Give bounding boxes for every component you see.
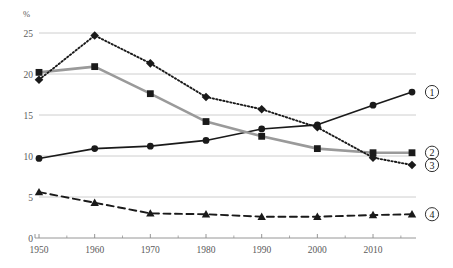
- legend-marker-4[interactable]: 4: [425, 208, 438, 221]
- data-point-marker-square: [258, 133, 265, 140]
- data-point-marker-circle: [203, 137, 210, 144]
- legend-group: 1234: [425, 85, 438, 220]
- x-tick-label: 2000: [308, 245, 327, 255]
- y-tick-label: 25: [24, 29, 34, 39]
- legend-label: 4: [430, 209, 435, 220]
- x-tick-label: 1960: [85, 245, 104, 255]
- y-axis-tick-labels: 0510152025: [24, 29, 34, 244]
- y-tick-label: 5: [28, 193, 33, 203]
- data-point-marker-square: [91, 63, 98, 70]
- data-point-marker-square: [147, 90, 154, 97]
- x-axis-tick-labels: 1950196019701980199020002010: [30, 245, 383, 255]
- y-axis-unit-group: %: [23, 9, 30, 19]
- series-lines-group: [39, 35, 412, 216]
- y-tick-label: 15: [24, 111, 34, 121]
- chart-canvas: 0510152025 % 195019601970198019902000201…: [0, 0, 453, 268]
- x-tick-label: 1990: [252, 245, 271, 255]
- data-point-marker-diamond: [146, 59, 155, 68]
- data-point-marker-diamond: [408, 161, 417, 170]
- data-point-marker-circle: [147, 143, 154, 150]
- x-tick-label: 2010: [364, 245, 383, 255]
- x-tick-label: 1970: [141, 245, 160, 255]
- data-point-marker-square: [36, 69, 43, 76]
- legend-marker-2[interactable]: 2: [425, 146, 438, 159]
- y-tick-label: 20: [24, 70, 34, 80]
- x-tick-label: 1980: [197, 245, 216, 255]
- legend-marker-3[interactable]: 3: [425, 158, 438, 171]
- x-tick-label: 1950: [30, 245, 49, 255]
- gridlines-group: [39, 33, 416, 197]
- legend-label: 2: [430, 147, 435, 158]
- legend-marker-1[interactable]: 1: [425, 85, 438, 98]
- data-point-marker-triangle: [35, 188, 43, 195]
- data-point-marker-square: [203, 118, 210, 125]
- data-point-marker-circle: [91, 145, 98, 152]
- data-point-marker-diamond: [202, 93, 211, 102]
- data-point-marker-square: [314, 145, 321, 152]
- data-point-marker-square: [409, 149, 416, 156]
- legend-label: 1: [430, 87, 435, 98]
- y-tick-label: 0: [28, 234, 33, 244]
- legend-label: 3: [430, 160, 435, 171]
- line-chart: 0510152025 % 195019601970198019902000201…: [0, 0, 453, 268]
- x-axis-group: [35, 234, 416, 238]
- data-point-marker-circle: [409, 89, 416, 96]
- series-line-2: [39, 67, 412, 153]
- data-point-marker-circle: [258, 126, 265, 133]
- data-point-marker-circle: [36, 155, 43, 162]
- data-point-marker-diamond: [257, 105, 266, 114]
- y-tick-label: 10: [24, 152, 34, 162]
- data-point-marker-circle: [370, 102, 377, 109]
- y-axis-unit-label: %: [23, 9, 30, 19]
